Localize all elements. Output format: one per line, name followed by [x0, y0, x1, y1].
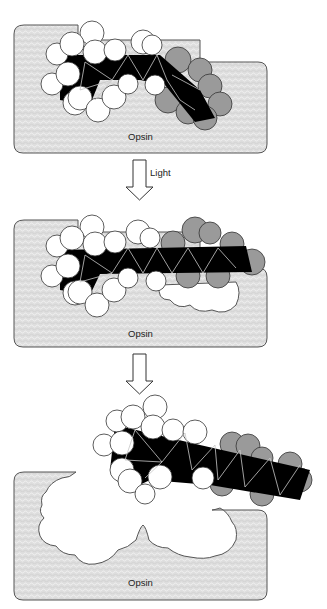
light-label: Light: [150, 167, 171, 178]
panel-3-released: Opsin: [14, 395, 312, 600]
down-arrow-icon: [126, 354, 153, 394]
panel-2-isomerized: Opsin: [14, 215, 267, 347]
opsin-label-2: Opsin: [128, 328, 153, 339]
rhodopsin-diagram: Opsin: [0, 0, 327, 609]
down-arrow-icon: [126, 160, 153, 200]
panel-1-bound-retinal: Opsin: [14, 21, 267, 153]
opsin-label-3: Opsin: [128, 577, 153, 588]
arrow-light: Light: [126, 160, 171, 200]
retinal-released: [93, 395, 312, 506]
opsin-label-1: Opsin: [128, 131, 153, 142]
arrow-2: [126, 354, 153, 394]
